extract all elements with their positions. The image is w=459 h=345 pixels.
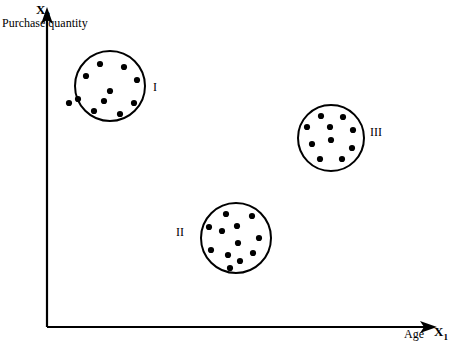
- plot-canvas: [0, 0, 459, 345]
- x-axis-group: [47, 321, 437, 333]
- x-axis-title: X1: [434, 324, 448, 342]
- clusters-group: [66, 51, 364, 273]
- data-point: [227, 265, 233, 271]
- y-axis-title-text: X: [36, 2, 45, 17]
- data-point: [249, 213, 255, 219]
- data-point: [318, 113, 324, 119]
- cluster-ii: [201, 203, 271, 273]
- data-point: [250, 250, 256, 256]
- data-point: [208, 247, 214, 253]
- data-point: [237, 258, 243, 264]
- data-point: [339, 156, 345, 162]
- x-axis-title-text: X: [434, 324, 443, 339]
- x-axis-title-subscript: 1: [443, 332, 448, 342]
- data-point: [256, 235, 262, 241]
- data-point: [66, 100, 72, 106]
- data-point: [219, 228, 225, 234]
- data-point: [75, 96, 81, 102]
- data-point: [223, 211, 229, 217]
- cluster-label-i: I: [153, 80, 157, 94]
- data-point: [83, 73, 89, 79]
- data-point: [235, 240, 241, 246]
- data-point: [350, 127, 356, 133]
- data-point: [91, 108, 97, 114]
- data-point: [225, 252, 231, 258]
- data-point: [349, 145, 355, 151]
- cluster-scatter-figure: X2 Purchase quantity Age X1 I II III: [0, 0, 459, 345]
- data-point: [134, 77, 140, 83]
- data-point: [206, 224, 212, 230]
- data-point: [304, 124, 310, 130]
- cluster-label-ii: II: [176, 225, 184, 239]
- data-point: [121, 64, 127, 70]
- data-point: [327, 124, 333, 130]
- y-axis-description: Purchase quantity: [2, 16, 64, 30]
- data-point: [107, 88, 113, 94]
- data-point: [309, 141, 315, 147]
- data-point: [328, 137, 334, 143]
- cluster-boundary-circle: [75, 51, 145, 121]
- cluster-iii: [298, 105, 364, 171]
- data-point: [97, 61, 103, 67]
- data-point: [340, 114, 346, 120]
- data-point: [317, 156, 323, 162]
- cluster-label-iii: III: [370, 125, 382, 139]
- data-point: [234, 223, 240, 229]
- data-point: [131, 100, 137, 106]
- cluster-i: [66, 51, 145, 121]
- data-point: [101, 98, 107, 104]
- x-axis-description: Age: [404, 327, 424, 341]
- y-axis-group: [41, 7, 53, 327]
- data-point: [117, 111, 123, 117]
